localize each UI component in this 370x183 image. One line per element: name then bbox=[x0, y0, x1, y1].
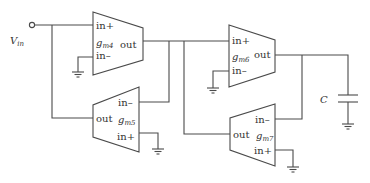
wire-gm6-inminus-gnd bbox=[213, 71, 229, 88]
svg-text:in+: in+ bbox=[117, 131, 135, 142]
transconductor-gm6: in+ in– out gm6 bbox=[229, 25, 275, 87]
vin-label: Vin bbox=[10, 35, 24, 48]
ground-icon bbox=[72, 72, 84, 77]
svg-text:in+: in+ bbox=[254, 145, 272, 156]
svg-text:out: out bbox=[96, 113, 112, 124]
svg-text:in–: in– bbox=[232, 65, 247, 76]
capacitor-label: C bbox=[320, 94, 328, 105]
circuit-diagram: Vin in+ in– out gm4 in– in+ out gm5 in+ … bbox=[0, 0, 370, 183]
wire-gm5-inplus-gnd bbox=[139, 133, 158, 149]
svg-text:in–: in– bbox=[96, 50, 111, 61]
svg-text:in–: in– bbox=[255, 114, 270, 125]
ground-icon bbox=[287, 167, 299, 172]
wire-to-gm7-inminus bbox=[275, 55, 302, 119]
svg-text:in–: in– bbox=[118, 97, 133, 108]
ground-icon bbox=[152, 149, 164, 154]
transconductor-gm5: in– in+ out gm5 bbox=[93, 87, 139, 152]
wire-gm6-out-to-cap bbox=[275, 55, 348, 95]
transconductor-gm4: in+ in– out gm4 bbox=[93, 12, 143, 75]
capacitor: C bbox=[320, 94, 358, 124]
svg-text:out: out bbox=[120, 39, 136, 50]
svg-text:out: out bbox=[254, 49, 270, 60]
wire-gm4-inminus-gnd bbox=[78, 57, 93, 72]
svg-text:in+: in+ bbox=[96, 20, 114, 31]
transconductor-gm7: in– in+ out gm7 bbox=[230, 104, 275, 166]
svg-text:in+: in+ bbox=[232, 35, 250, 46]
svg-text:out: out bbox=[233, 129, 249, 140]
ground-icon bbox=[207, 88, 219, 93]
vin-terminal: Vin bbox=[10, 22, 35, 48]
wire-gm7-inplus-gnd bbox=[275, 150, 293, 167]
ground-icon bbox=[342, 124, 354, 129]
